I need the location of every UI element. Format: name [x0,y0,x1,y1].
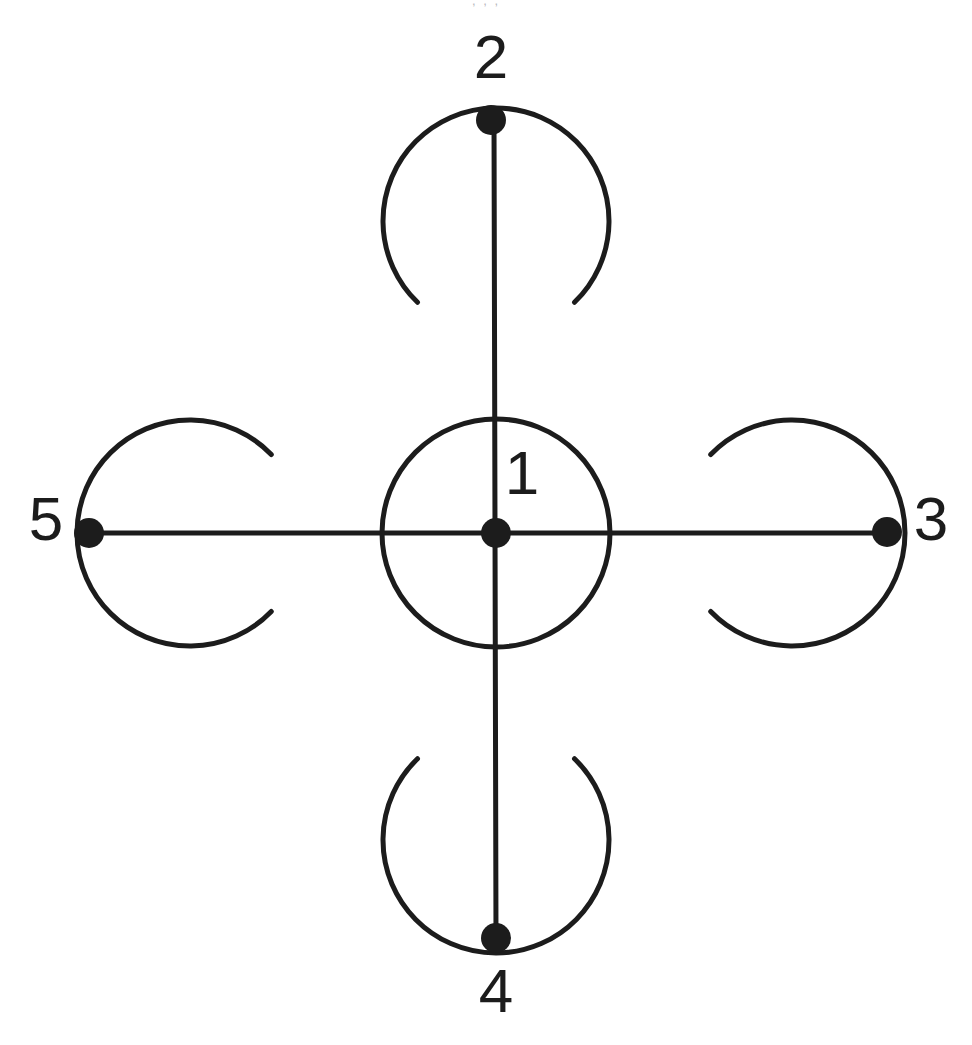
node-dot-5[interactable] [74,518,104,548]
nodes-group [74,105,902,953]
node-link-diagram: 12345 [0,0,972,1045]
node-dot-4[interactable] [481,923,511,953]
node-dot-3[interactable] [872,517,902,547]
node-dot-2[interactable] [476,105,506,135]
node-label-2: 2 [474,22,508,91]
node-dot-1[interactable] [481,518,511,548]
node-label-3: 3 [914,484,948,553]
node-label-5: 5 [29,484,63,553]
diagram-canvas: , , , 12345 [0,0,972,1045]
node-label-1: 1 [505,438,539,507]
node-label-4: 4 [479,956,513,1025]
